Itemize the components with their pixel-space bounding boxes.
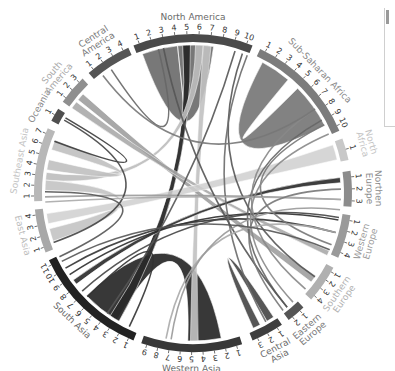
tick-label: 8: [58, 292, 68, 302]
tick-label: 3: [158, 25, 165, 35]
tick-label: 10: [243, 31, 256, 43]
tick-label: 1: [235, 348, 242, 358]
tick-label: 6: [177, 354, 183, 363]
tick-label: 9: [141, 347, 148, 357]
tick-label: 4: [24, 213, 34, 219]
tick-label: 1: [353, 173, 362, 179]
tick-label: 2: [111, 335, 120, 345]
side-panel: [384, 8, 395, 127]
tick-label: 1: [55, 89, 65, 98]
tick-label: 1: [43, 107, 53, 116]
region-label-western-asia: Western Asia: [162, 363, 221, 371]
tick-label: 1: [22, 193, 31, 198]
tick-label: 1: [133, 32, 141, 42]
tick-label: 1: [84, 59, 94, 69]
region-label-north-america: North America: [160, 12, 225, 22]
tick-label: 2: [275, 46, 284, 56]
tick-label: 3: [23, 171, 33, 177]
tick-label: 2: [354, 186, 363, 191]
tick-label: 7: [319, 87, 329, 97]
tick-label: 4: [116, 39, 125, 49]
tick-label: 1: [32, 246, 42, 254]
tick-label: 5: [184, 23, 189, 32]
tick-label: 9: [51, 283, 61, 292]
tick-label: 2: [94, 51, 103, 61]
chord-ribbon: [87, 253, 222, 341]
tick-label: 2: [224, 351, 231, 361]
tick-label: 2: [23, 182, 32, 188]
region-arc-eastern-europe[interactable]: [284, 302, 304, 320]
tick-label: 10: [337, 116, 349, 129]
tick-label: 6: [30, 137, 40, 145]
tick-label: 3: [101, 329, 110, 339]
tick-label: 3: [285, 53, 294, 63]
region-arc-northern-europe[interactable]: [343, 171, 352, 207]
chord-line: [45, 197, 341, 202]
tick-label: 3: [212, 353, 218, 363]
tick-label: 4: [171, 23, 177, 33]
tick-label: 1: [352, 219, 362, 226]
tick-label: 5: [27, 148, 37, 155]
tick-label: 3: [105, 45, 114, 55]
tick-label: 4: [201, 354, 207, 363]
region-label-east-asia: East Asia: [13, 214, 33, 256]
tick-label: 9: [333, 107, 343, 116]
tick-label: 7: [209, 23, 215, 33]
chord-ribbons: [45, 45, 341, 341]
tick-label: 4: [91, 323, 100, 333]
tick-label: 1: [121, 340, 129, 350]
tick-label: 1: [348, 144, 358, 151]
tick-label: 8: [326, 97, 336, 106]
tick-label: 4: [342, 251, 352, 259]
tick-label: 3: [354, 198, 363, 204]
tick-label: 8: [221, 25, 228, 35]
tick-label: 5: [189, 354, 194, 363]
tick-label: 8: [153, 350, 160, 360]
region-label-northern-europe: Europe: [364, 172, 375, 204]
tick-label: 9: [233, 28, 240, 38]
tick-label: 2: [145, 28, 152, 38]
tick-label: 6: [197, 23, 202, 32]
tick-label: 7: [165, 352, 171, 362]
panel-handle[interactable]: [386, 10, 389, 24]
tick-label: 1: [264, 40, 273, 50]
tick-label: 7: [34, 127, 44, 135]
region-arc-western-europe[interactable]: [331, 214, 351, 258]
tick-label: 4: [25, 159, 35, 166]
